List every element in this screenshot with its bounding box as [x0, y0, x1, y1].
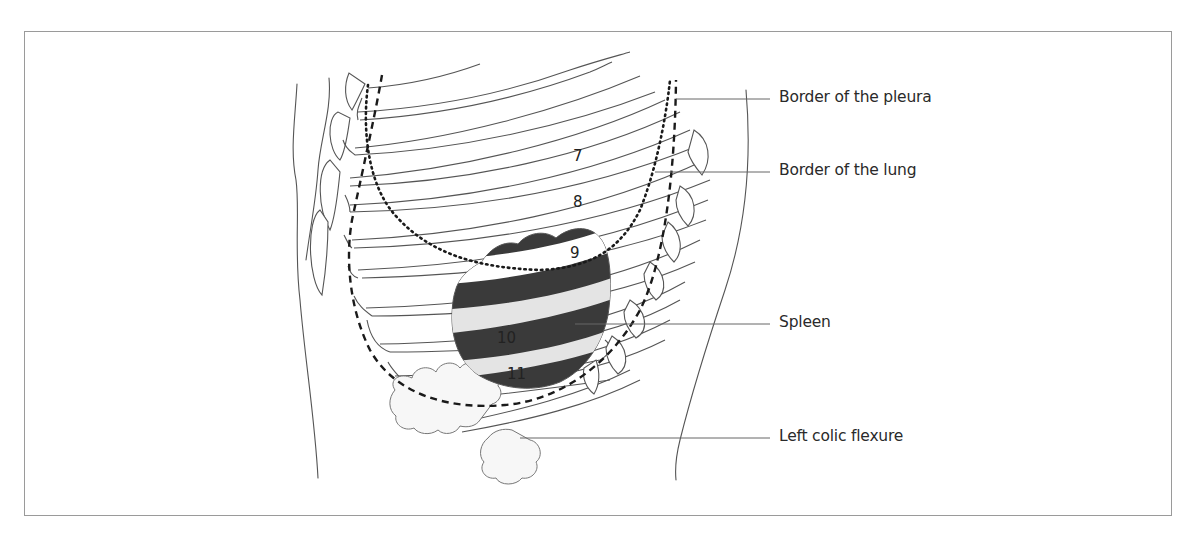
scapula-bones — [310, 73, 365, 295]
label-spleen: Spleen — [779, 313, 831, 331]
rib-number-8: 8 — [573, 193, 583, 211]
rib-number-9: 9 — [570, 244, 580, 262]
label-lung-border: Border of the lung — [779, 161, 916, 179]
anatomy-illustration: 7 8 9 10 11 — [0, 0, 1191, 536]
label-left-colic-flexure: Left colic flexure — [779, 427, 903, 445]
rib-number-11: 11 — [507, 365, 526, 383]
lung-border-line — [366, 80, 670, 270]
rib-number-7: 7 — [573, 147, 583, 165]
label-pleura-border: Border of the pleura — [779, 88, 932, 106]
rib-number-10: 10 — [497, 329, 516, 347]
